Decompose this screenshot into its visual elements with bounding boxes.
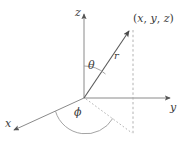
point-comma-1: ,	[144, 12, 151, 25]
y-axis-label: y	[170, 102, 176, 113]
xy-plane-projection-line	[86, 99, 132, 133]
point-comma-2: ,	[157, 12, 164, 25]
x-axis-label: x	[5, 118, 11, 129]
z-axis-label: z	[75, 7, 81, 18]
spherical-coordinates-figure: z y x r θ ϕ (x, y, z)	[0, 0, 182, 147]
phi-arc	[56, 111, 113, 134]
theta-angle-label: θ	[88, 60, 95, 71]
phi-angle-label: ϕ	[74, 107, 82, 118]
point-coordinates-label: (x, y, z)	[133, 13, 174, 24]
radial-distance-label: r	[114, 51, 119, 61]
point-close-paren: )	[170, 12, 174, 25]
